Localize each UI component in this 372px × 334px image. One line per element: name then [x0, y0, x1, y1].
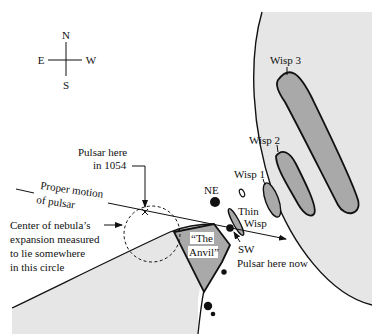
star-below-anvil	[221, 269, 226, 274]
label-anvil-2: Anvil”	[189, 246, 219, 258]
label-anvil-1: “The	[191, 232, 213, 244]
label-ne: NE	[204, 184, 219, 196]
compass-e: E	[38, 54, 45, 66]
compass-n: N	[62, 29, 70, 41]
label-proper-motion-2: of pulsar	[36, 193, 76, 210]
star-ne	[210, 197, 220, 207]
label-sw: SW	[238, 243, 255, 255]
label-wisp-3: Wisp 3	[270, 54, 302, 66]
compass-s: S	[63, 79, 69, 91]
compass: N S E W	[38, 29, 97, 91]
label-center-1: Center of nebula’s	[10, 219, 91, 231]
label-center-2: expansion measured	[10, 233, 100, 245]
proper-motion-leftdash	[16, 189, 34, 193]
label-thin-wisp-1: Thin	[238, 205, 259, 217]
star-lower-2	[211, 312, 216, 317]
nebula-lower-boundary-2	[198, 290, 204, 334]
compass-w: W	[86, 54, 97, 66]
pulsar-1054-leader	[132, 166, 145, 207]
pulsar-1054-mark	[142, 209, 148, 215]
label-center-3: to lie somewhere	[10, 247, 85, 259]
label-center-4: in this circle	[10, 261, 64, 273]
label-thin-wisp-2: Wisp	[244, 217, 267, 229]
label-wisp-1: Wisp 1	[234, 168, 265, 180]
label-wisp-2: Wisp 2	[249, 134, 280, 146]
label-pulsar-1054-1: Pulsar here	[78, 146, 127, 158]
label-pulsar-now: Pulsar here now	[237, 257, 308, 269]
label-pulsar-1054-2: in 1054	[93, 159, 127, 171]
crab-pulsar-diagram: N S E W Wisp 3 Wisp 2 Wisp 1 NE Thin Wis…	[0, 0, 372, 334]
star-lower-1	[204, 302, 212, 310]
knot-small	[238, 188, 245, 197]
